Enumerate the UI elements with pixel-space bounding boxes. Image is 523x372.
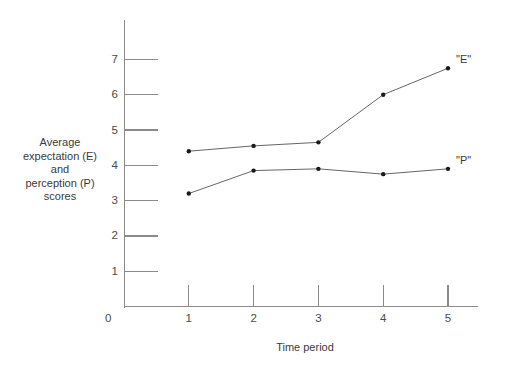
data-point-marker	[316, 167, 320, 171]
data-point-marker	[381, 93, 385, 97]
chart-figure: Average expectation (E) and perception (…	[0, 0, 523, 372]
data-point-marker	[446, 167, 450, 171]
x-axis-title: Time period	[250, 341, 360, 353]
data-point-marker	[446, 66, 450, 70]
data-point-marker	[251, 144, 255, 148]
series-line	[189, 169, 448, 194]
data-point-marker	[187, 149, 191, 153]
data-point-marker	[316, 140, 320, 144]
series-label: "P"	[456, 154, 471, 166]
data-point-marker	[381, 172, 385, 176]
plot-area	[0, 0, 523, 372]
series-label: "E"	[456, 53, 471, 65]
data-point-marker	[187, 191, 191, 195]
data-point-marker	[251, 168, 255, 172]
series-line	[189, 68, 448, 151]
